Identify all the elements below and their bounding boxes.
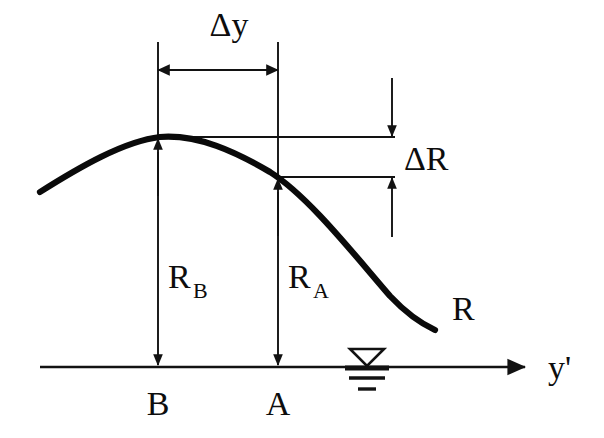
ra-label-base: R <box>288 258 311 295</box>
curve-label-r: R <box>452 290 475 327</box>
delta-y-dimension <box>158 42 278 177</box>
station-label-a: A <box>266 385 291 422</box>
reference-lines <box>158 137 395 177</box>
station-label-b: B <box>147 385 170 422</box>
ra-label: R A <box>288 258 329 303</box>
rb-label-subscript: B <box>193 278 208 303</box>
delta-r-label: ΔR <box>404 140 449 177</box>
curve-r <box>40 137 435 330</box>
rb-label: R B <box>168 258 208 303</box>
delta-y-label: Δy <box>210 6 249 43</box>
profile-curve-path <box>40 137 435 330</box>
ra-label-subscript: A <box>313 278 329 303</box>
water-table-icon <box>345 349 389 389</box>
axis-label-y-prime: y' <box>548 349 571 386</box>
figure-canvas: Δy ΔR R B R A R B A y' <box>0 0 604 438</box>
rb-label-base: R <box>168 258 191 295</box>
water-table-triangle-icon <box>350 349 384 366</box>
diagram-svg: Δy ΔR R B R A R B A y' <box>0 0 604 438</box>
